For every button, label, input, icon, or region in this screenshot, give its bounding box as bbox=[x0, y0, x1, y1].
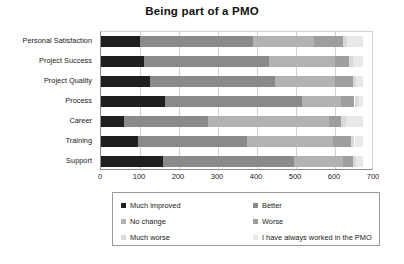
legend-label: No change bbox=[130, 217, 166, 226]
bar-segment bbox=[144, 56, 269, 67]
bar-segment bbox=[163, 156, 294, 167]
x-axis-tick: 0 bbox=[80, 172, 120, 181]
bar-segment bbox=[247, 136, 333, 147]
plot-area bbox=[100, 31, 373, 170]
legend-swatch-icon bbox=[253, 219, 258, 224]
y-axis-label: Personal Satisfaction bbox=[23, 35, 92, 46]
bar-segment bbox=[101, 156, 163, 167]
x-axis-tick-labels: 0100200300400500600700 bbox=[0, 172, 404, 184]
y-axis-label: Process bbox=[65, 95, 92, 106]
bar-segment bbox=[333, 136, 351, 147]
bar-segment bbox=[101, 36, 140, 47]
bar-segment bbox=[124, 116, 208, 127]
legend-item[interactable]: Much improved bbox=[121, 198, 239, 213]
bar-segment bbox=[101, 96, 165, 107]
bar-segment bbox=[208, 116, 329, 127]
bar-segment bbox=[343, 156, 353, 167]
legend-label: Much worse bbox=[130, 233, 170, 242]
legend-column-left: Much improvedNo changeMuch worse bbox=[121, 197, 239, 241]
stacked-bars bbox=[101, 32, 372, 169]
bar-segment bbox=[101, 116, 124, 127]
x-axis-tick: 300 bbox=[197, 172, 237, 181]
legend-label: I have always worked in the PMO bbox=[262, 233, 372, 242]
chart-legend: Much improvedNo changeMuch worse BetterW… bbox=[112, 192, 380, 246]
bar-segment bbox=[356, 156, 363, 167]
y-axis-category-labels: Personal SatisfactionProject SuccessProj… bbox=[0, 31, 96, 170]
bar-row bbox=[101, 36, 372, 47]
bar-segment bbox=[140, 36, 253, 47]
bar-segment bbox=[335, 56, 349, 67]
bar-segment bbox=[165, 96, 302, 107]
bar-row bbox=[101, 116, 372, 127]
y-axis-label: Career bbox=[69, 115, 92, 126]
y-axis-label: Project Quality bbox=[44, 75, 92, 86]
bar-segment bbox=[353, 56, 364, 67]
y-axis-label: Training bbox=[66, 135, 92, 146]
bar-segment bbox=[294, 156, 343, 167]
bar-segment bbox=[275, 76, 335, 87]
y-axis-label: Project Success bbox=[39, 55, 92, 66]
bar-segment bbox=[347, 36, 363, 47]
x-axis-tick: 600 bbox=[314, 172, 354, 181]
bar-segment bbox=[150, 76, 275, 87]
legend-label: Better bbox=[262, 201, 282, 210]
legend-swatch-icon bbox=[121, 219, 126, 224]
bar-segment bbox=[356, 76, 363, 87]
x-axis-tick: 200 bbox=[158, 172, 198, 181]
bar-segment bbox=[341, 96, 355, 107]
bar-segment bbox=[101, 76, 150, 87]
bar-segment bbox=[138, 136, 247, 147]
bar-segment bbox=[269, 56, 335, 67]
bar-segment bbox=[101, 56, 144, 67]
legend-item[interactable]: Worse bbox=[253, 214, 377, 229]
x-axis-tick: 400 bbox=[236, 172, 276, 181]
x-axis-tick: 700 bbox=[353, 172, 393, 181]
legend-item[interactable]: Much worse bbox=[121, 230, 239, 245]
legend-column-right: BetterWorseI have always worked in the P… bbox=[253, 197, 377, 241]
bar-row bbox=[101, 156, 372, 167]
legend-swatch-icon bbox=[253, 203, 258, 208]
bar-segment bbox=[358, 96, 363, 107]
x-axis-tick: 100 bbox=[119, 172, 159, 181]
legend-label: Much improved bbox=[130, 201, 181, 210]
bar-segment bbox=[314, 36, 343, 47]
chart-title: Being part of a PMO bbox=[0, 5, 404, 17]
bar-segment bbox=[346, 116, 364, 127]
legend-item[interactable]: Better bbox=[253, 198, 377, 213]
x-axis-tick: 500 bbox=[275, 172, 315, 181]
bar-segment bbox=[101, 136, 138, 147]
bar-row bbox=[101, 136, 372, 147]
bar-segment bbox=[302, 96, 341, 107]
bar-segment bbox=[253, 36, 313, 47]
legend-label: Worse bbox=[262, 217, 283, 226]
legend-swatch-icon bbox=[253, 235, 258, 240]
legend-item[interactable]: No change bbox=[121, 214, 239, 229]
chart-container: Being part of a PMO Personal Satisfactio… bbox=[0, 0, 404, 264]
bar-row bbox=[101, 96, 372, 107]
legend-swatch-icon bbox=[121, 235, 126, 240]
bar-segment bbox=[335, 76, 353, 87]
bar-segment bbox=[329, 116, 341, 127]
bar-row bbox=[101, 76, 372, 87]
bar-row bbox=[101, 56, 372, 67]
y-axis-label: Support bbox=[66, 155, 92, 166]
legend-swatch-icon bbox=[121, 203, 126, 208]
legend-item[interactable]: I have always worked in the PMO bbox=[253, 230, 377, 245]
bar-segment bbox=[355, 136, 364, 147]
